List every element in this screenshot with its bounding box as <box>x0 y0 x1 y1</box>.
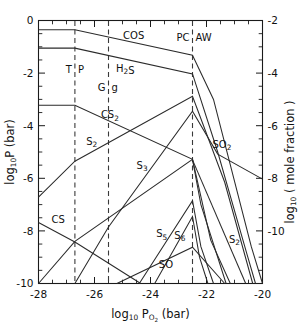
y-right-tick-label: -4 <box>268 67 279 79</box>
phase-label-Gg-right: g <box>112 82 118 93</box>
y-axis-left-ticks <box>39 21 46 284</box>
curve-S2_upper <box>39 96 253 283</box>
y-right-tick-label: -2 <box>268 14 278 26</box>
phase-label-PCAW-right: AW <box>196 32 212 43</box>
species-label: S5 <box>156 228 167 241</box>
y-right-tick-label: -6 <box>268 120 279 132</box>
species-label: COS <box>123 30 144 41</box>
y-left-tick-label: -2 <box>23 67 33 79</box>
x-axis-title: log10 PO2 (bar) <box>111 307 190 323</box>
y-left-tick-label: -8 <box>23 225 33 237</box>
species-label: SO <box>159 259 173 270</box>
x-tick-label: -24 <box>142 288 159 300</box>
x-tick-label: -28 <box>30 288 47 300</box>
x-tick-label: -26 <box>86 288 103 300</box>
species-label: CS2 <box>101 109 119 122</box>
species-label: S2 <box>86 136 97 149</box>
y-axis-left-title: log10P (bar) <box>3 119 19 185</box>
species-label: H2S <box>116 63 135 76</box>
phase-label-PCAW-left: PC <box>176 32 189 43</box>
x-tick-labels: -28-26-24-22-20 <box>30 288 271 300</box>
equilibrium-speciation-figure: COSH2SCS2S2SO2S3CSS5S6SOS2 TPGgPCAW -28-… <box>0 0 306 330</box>
x-tick-label: -20 <box>254 288 271 300</box>
y-left-tick-label: -10 <box>16 277 33 289</box>
species-label: S3 <box>137 160 148 173</box>
curve-S6 <box>155 216 208 283</box>
y-axis-right-ticks <box>256 21 263 284</box>
y-right-tick-label: -10 <box>268 225 285 237</box>
y-right-tick-label: -8 <box>268 172 278 184</box>
y-left-tick-label: -4 <box>23 120 34 132</box>
y-left-tick-label: 0 <box>27 14 34 26</box>
y-left-tick-label: -6 <box>23 172 34 184</box>
phase-label-Gg-left: G <box>98 82 106 93</box>
chart-canvas: COSH2SCS2S2SO2S3CSS5S6SOS2 TPGgPCAW -28-… <box>0 0 306 330</box>
phase-label-TP-right: P <box>78 64 84 75</box>
y-axis-right-title: log10 ( mole fraction ) <box>283 100 299 223</box>
species-label: S2 <box>229 234 240 247</box>
phase-label-TP-left: T <box>65 64 73 75</box>
curve-S5 <box>139 201 213 284</box>
x-tick-label: -22 <box>198 288 215 300</box>
y-left-tick-labels: 0-2-4-6-8-10 <box>16 14 33 289</box>
species-label: CS <box>51 214 64 225</box>
species-curves <box>39 30 263 284</box>
